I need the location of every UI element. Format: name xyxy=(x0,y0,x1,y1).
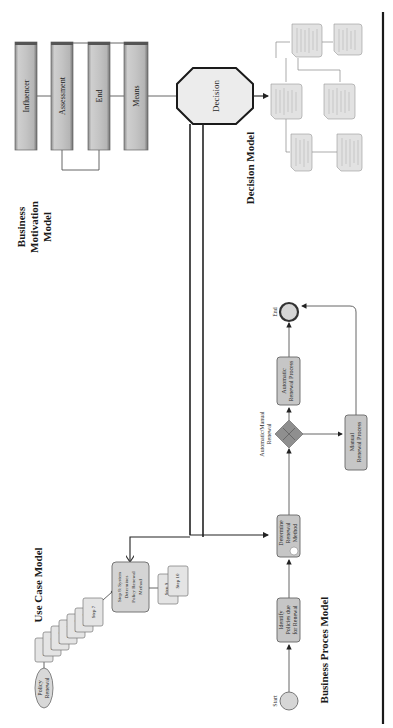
decision-model: Decision Model xyxy=(244,24,362,204)
decision-model-node[interactable] xyxy=(337,134,362,171)
bmm-label: End xyxy=(95,90,104,103)
business-motivation-model: Influencer Assessment End Means Business… xyxy=(15,42,177,253)
svg-text:Determine: Determine xyxy=(278,520,284,546)
svg-text:Policy: Policy xyxy=(37,680,43,695)
end-label: End xyxy=(272,307,278,317)
svg-text:Policies due: Policies due xyxy=(285,605,291,634)
decision-node[interactable]: Decision xyxy=(177,68,253,124)
decision-model-node[interactable] xyxy=(292,24,322,57)
svg-text:Method: Method xyxy=(292,524,298,543)
bmm-box-end[interactable]: End xyxy=(88,42,110,150)
svg-text:Step 8: System: Step 8: System xyxy=(117,572,122,602)
svg-text:for Renewal: for Renewal xyxy=(292,605,298,635)
bmm-box-assessment[interactable]: Assessment xyxy=(51,42,73,150)
task-determine-renewal-method[interactable]: Determine Renewal Method xyxy=(277,515,300,557)
decision-model-node[interactable] xyxy=(324,84,355,119)
bmm-label: Influencer xyxy=(22,79,31,112)
svg-text:Motivation: Motivation xyxy=(28,201,40,253)
svg-text:Renewal: Renewal xyxy=(285,522,291,543)
step-card-7[interactable]: Step 7 xyxy=(83,598,103,626)
decision-model-node[interactable] xyxy=(271,84,302,119)
svg-text:Renewal Process: Renewal Process xyxy=(356,421,362,462)
svg-text:Model: Model xyxy=(41,212,53,242)
svg-text:Policy Renewal: Policy Renewal xyxy=(131,571,136,603)
start-event[interactable] xyxy=(280,692,298,710)
svg-text:Automatic: Automatic xyxy=(281,368,287,394)
connector-decision-to-step8 xyxy=(130,537,190,562)
step-card-10[interactable]: Step 10 xyxy=(168,566,188,596)
task-manual-renewal[interactable]: Manual Renewal Process xyxy=(345,415,367,470)
svg-text:Manual: Manual xyxy=(349,433,355,452)
gateway-label: Automatic/Manual xyxy=(259,411,265,457)
actor-policy-renewal[interactable]: Policy Renewal xyxy=(35,668,53,708)
gateway-label: Renewal xyxy=(266,423,272,444)
svg-text:Renewal Process: Renewal Process xyxy=(288,360,294,401)
business-rule-marker-icon xyxy=(290,547,298,555)
decision-model-title: Decision Model xyxy=(244,132,256,204)
start-label: Start xyxy=(272,695,278,707)
task-identify-policies[interactable]: Identify Policies due for Renewal xyxy=(277,598,300,642)
connector-assessment-end-bottom xyxy=(62,150,99,170)
svg-text:Method: Method xyxy=(138,579,143,595)
step-8-system-determines[interactable]: Step 8: System Determines Policy Renewal… xyxy=(112,562,149,612)
bpm-title: Business Proces Model xyxy=(318,597,330,704)
bmm-title: Business Motivation Model xyxy=(15,201,53,253)
use-case-title: Use Case Model xyxy=(32,547,44,622)
flow-manual-end xyxy=(302,306,356,415)
decision-model-node[interactable] xyxy=(291,134,312,171)
decision-label: Decision xyxy=(211,80,221,112)
use-case-model: Use Case Model Policy Renewal Step 1 Ste… xyxy=(32,547,188,708)
business-process-model: Start Identify Policies due for Renewal … xyxy=(259,303,367,710)
bmm-label: Assessment xyxy=(58,76,67,115)
bmm-label: Means xyxy=(132,85,141,106)
end-event[interactable] xyxy=(280,303,298,321)
svg-text:Step 7: Step 7 xyxy=(91,605,96,618)
svg-text:Determines: Determines xyxy=(124,575,129,598)
svg-text:Identify: Identify xyxy=(278,611,284,630)
diagram-canvas: Influencer Assessment End Means Business… xyxy=(0,0,393,728)
task-automatic-renewal[interactable]: Automatic Renewal Process xyxy=(277,357,300,405)
gateway-automatic-manual[interactable] xyxy=(275,420,303,448)
connector-step7-step8 xyxy=(103,592,112,600)
bmm-box-means[interactable]: Means xyxy=(124,42,148,150)
bmm-box-influencer[interactable]: Influencer xyxy=(15,42,37,150)
connector-decision-to-determine-task xyxy=(190,124,268,535)
svg-text:Step 10: Step 10 xyxy=(175,573,180,589)
svg-text:Business: Business xyxy=(15,206,27,247)
decision-model-node[interactable] xyxy=(334,24,362,55)
svg-text:Renewal: Renewal xyxy=(44,677,50,698)
